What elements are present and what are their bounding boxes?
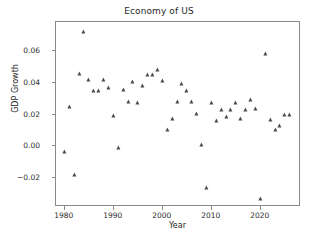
y-tick-label: 0.02: [0, 110, 40, 119]
x-tick-label: 2020: [240, 211, 280, 220]
x-tick-mark: [162, 206, 163, 210]
x-axis-label: Year: [55, 221, 300, 230]
x-tick-label: 1990: [93, 211, 133, 220]
page-title: Economy of US: [0, 6, 318, 16]
x-tick-mark: [260, 206, 261, 210]
x-tick-label: 2010: [191, 211, 231, 220]
y-tick-label: 0.04: [0, 78, 40, 87]
x-tick-mark: [211, 206, 212, 210]
x-axis-ticks: 19801990200020102020: [55, 21, 300, 206]
y-axis-label: GDP Growth: [11, 44, 20, 134]
x-tick-label: 1980: [44, 211, 84, 220]
y-tick-label: −0.02: [0, 173, 40, 182]
x-tick-label: 2000: [142, 211, 182, 220]
x-tick-mark: [64, 206, 65, 210]
x-tick-mark: [113, 206, 114, 210]
matplotlib-figure: Economy of US −0.020.000.020.040.06 1980…: [0, 0, 318, 238]
y-tick-label: 0.06: [0, 46, 40, 55]
y-tick-label: 0.00: [0, 141, 40, 150]
